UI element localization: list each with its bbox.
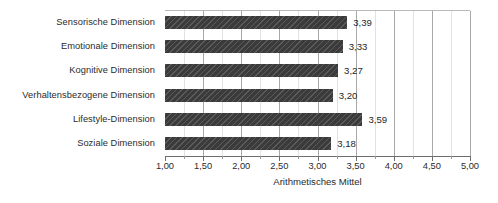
x-tick-label: 5,00 — [461, 161, 479, 171]
bar-row: 3,18 — [165, 132, 470, 156]
bar-row: 3,39 — [165, 11, 470, 35]
category-label: Verhaltensbezogene Dimension — [22, 83, 155, 107]
bar — [165, 16, 347, 29]
bar-value-label: 3,33 — [349, 38, 368, 55]
bar-row: 3,20 — [165, 84, 470, 108]
x-tick-minor — [298, 156, 299, 159]
plot-area: 3,393,333,273,203,593,18 — [165, 10, 470, 157]
bar-row: 3,59 — [165, 108, 470, 132]
bar — [165, 113, 362, 126]
bar-value-label: 3,20 — [339, 87, 358, 104]
x-tick-minor — [413, 156, 414, 159]
gridline-major — [470, 11, 471, 156]
x-tick-minor — [451, 156, 452, 159]
x-tick-minor — [375, 156, 376, 159]
x-tick-minor — [222, 156, 223, 159]
bar-value-label: 3,39 — [353, 14, 372, 31]
x-tick-minor — [184, 156, 185, 159]
x-tick-label: 2,00 — [232, 161, 250, 171]
x-tick-minor — [337, 156, 338, 159]
x-axis-title: Arithmetisches Mittel — [165, 176, 470, 187]
x-tick-label: 3,50 — [347, 161, 365, 171]
bar — [165, 40, 343, 53]
x-tick-label: 3,00 — [308, 161, 326, 171]
bar-row: 3,33 — [165, 35, 470, 59]
category-label: Emotionale Dimension — [61, 34, 155, 58]
category-label: Sensorische Dimension — [56, 10, 155, 34]
horizontal-bar-chart: Sensorische DimensionEmotionale Dimensio… — [0, 0, 498, 203]
x-tick-label: 1,00 — [156, 161, 174, 171]
x-tick-label: 2,50 — [270, 161, 288, 171]
bar-value-label: 3,59 — [368, 111, 387, 128]
x-tick-label: 4,00 — [385, 161, 403, 171]
x-tick-label: 1,50 — [194, 161, 212, 171]
bar — [165, 137, 331, 150]
bar — [165, 64, 338, 77]
category-axis: Sensorische DimensionEmotionale Dimensio… — [0, 10, 160, 155]
bar-value-label: 3,18 — [337, 135, 356, 152]
x-axis: 1,001,502,002,503,003,504,004,505,00 — [165, 156, 470, 176]
bar-row: 3,27 — [165, 59, 470, 83]
x-tick-minor — [260, 156, 261, 159]
bar-value-label: 3,27 — [344, 62, 363, 79]
category-label: Lifestyle-Dimension — [73, 107, 155, 131]
x-tick-label: 4,50 — [423, 161, 441, 171]
category-label: Kognitive Dimension — [69, 58, 155, 82]
bar — [165, 89, 333, 102]
category-label: Soziale Dimension — [77, 131, 155, 155]
